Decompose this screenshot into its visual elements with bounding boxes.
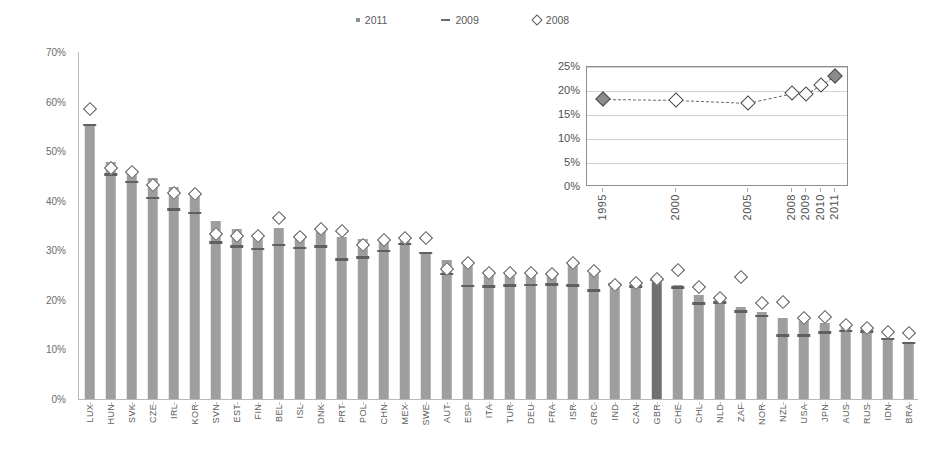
x-tick-label: MEX [400,404,410,424]
inset-x-tick-label: 2000 [669,194,681,220]
bar-group [352,52,373,399]
inset-x-tick [834,188,835,192]
inset-gridline [587,163,847,164]
x-tick-label: BRA [904,404,914,423]
inset-data-point [784,85,800,101]
bar-group [163,52,184,399]
x-tick-label: ESP [463,404,473,423]
bar-group [373,52,394,399]
x-tick-label: RUS [862,404,872,424]
bar-2011 [336,237,347,399]
marker-2009 [755,315,769,318]
x-tick-label: HUN [106,404,116,424]
x-tick-label: PRT [337,404,347,423]
marker-2008 [817,310,831,324]
bar-2011 [798,320,809,399]
bar-2011 [651,279,662,399]
bar-group [394,52,415,399]
inset-gridline [587,115,847,116]
bar-2011 [777,318,788,399]
inset-data-point [668,92,684,108]
y-axis-labels: 0%10%20%30%40%50%60%70% [0,0,72,451]
bar-2011 [210,221,221,399]
x-tick-label: USA [799,404,809,423]
marker-2009 [272,244,286,247]
inset-x-tick [791,188,792,192]
inset-x-tick-label: 2009 [799,194,811,220]
bar-group [79,52,100,399]
marker-2008 [733,270,747,284]
inset-y-tick-label: 20% [558,84,580,96]
x-tick-label: AUT [442,404,452,423]
x-tick-label: CHE [673,404,683,424]
bar-2011 [609,282,620,399]
x-tick-label: SVK [127,404,137,423]
marker-2008 [691,280,705,294]
bar-group [436,52,457,399]
inset-y-tick-label: 25% [558,60,580,72]
bar-2011 [399,241,410,399]
marker-2009 [356,256,370,259]
bar-2011 [693,295,704,399]
bar-2011 [819,323,830,399]
bar-2011 [126,172,137,399]
inset-x-tick-label: 2011 [828,194,840,220]
inset-x-tick-label: 2008 [785,194,797,220]
x-tick-label: SVN [211,404,221,423]
marker-2009 [209,241,223,244]
x-tick-label: POL [358,404,368,423]
y-tick-label: 50% [46,146,66,157]
bar-group [310,52,331,399]
inset-data-point [798,86,814,102]
marker-2008 [754,296,768,310]
inset-gridline [587,67,847,68]
x-tick-label: LUX [85,404,95,422]
marker-2009 [503,284,517,287]
marker-2009 [335,258,349,261]
x-tick-label: IDN [883,404,893,420]
inset-y-tick-label: 15% [558,108,580,120]
bar-group [205,52,226,399]
inset-x-tick [820,188,821,192]
inset-data-point [827,68,843,84]
inset-x-tick-label: 2010 [814,194,826,220]
marker-2009 [482,285,496,288]
bar-group [142,52,163,399]
x-axis-line [78,399,918,400]
x-tick-label: EST [232,404,242,422]
marker-2009 [524,284,538,287]
bar-2011 [462,262,473,399]
x-axis-labels: LUXHUNSVKCZEIRLKORSVNESTFINBELISLDNKPRTP… [79,402,919,451]
bar-2011 [231,229,242,399]
marker-2009 [125,181,139,184]
bar-2011 [105,162,116,399]
x-tick-label: BEL [274,404,284,422]
inset-data-point [595,91,611,107]
inset-gridline [587,139,847,140]
bar-2011 [315,230,326,399]
inset-line-segment [603,99,676,101]
marker-2008 [418,231,432,245]
x-tick-label: ISL [295,404,305,418]
x-tick-label: CAN [631,404,641,424]
inset-line-segment [675,100,748,104]
x-tick-label: ITA [484,404,494,418]
bar-2011 [630,283,641,399]
bar-group [268,52,289,399]
bar-2011 [546,273,557,399]
bar-group [499,52,520,399]
bar-2011 [441,260,452,399]
bar-group [898,52,919,399]
marker-2009 [314,245,328,248]
x-tick-label: GBR [652,404,662,424]
y-tick-label: 40% [46,195,66,206]
marker-2009 [671,286,685,289]
marker-2009 [251,248,265,251]
bar-2011 [147,178,158,399]
bar-2011 [504,271,515,399]
bar-group [478,52,499,399]
x-tick-label: CZE [148,404,158,423]
x-tick-label: AUS [841,404,851,423]
marker-2008 [271,211,285,225]
bar-2011 [672,285,683,400]
